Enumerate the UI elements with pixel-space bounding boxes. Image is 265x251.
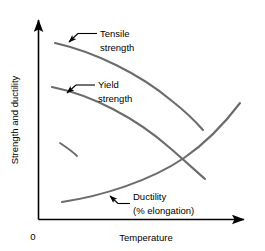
- y-axis-label: Strength and ductility: [9, 75, 20, 164]
- chart-figure: Tensile strength Yield strength Ductilit…: [0, 0, 265, 251]
- x-axis-label: Temperature: [119, 232, 172, 243]
- chart-canvas: Tensile strength Yield strength Ductilit…: [0, 0, 265, 251]
- annotation-label-ductility-line1: Ductility: [133, 191, 167, 202]
- annotation-label-tensile-line2: strength: [100, 42, 134, 53]
- annotation-label-tensile-line1: Tensile: [100, 28, 130, 39]
- origin-label: 0: [30, 231, 35, 242]
- tensile-arrow-icon: [69, 34, 78, 43]
- series-curve-ductility: [62, 103, 240, 202]
- annotation-label-ductility-line2: (% elongation): [133, 205, 194, 216]
- annotation-label-yield-line1: Yield: [98, 79, 119, 90]
- ductility-arrow-icon: [110, 196, 118, 204]
- annotation-label-yield-line2: strength: [98, 93, 132, 104]
- stray-curve-mark: [60, 143, 77, 156]
